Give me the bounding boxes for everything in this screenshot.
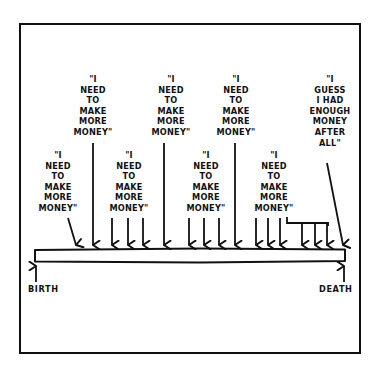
quote-lower-2: "I NEED TO MAKE MORE MONEY" [110, 150, 149, 214]
quote-lower-1: "I NEED TO MAKE MORE MONEY" [39, 150, 78, 214]
arrow-final-quote-icon [327, 163, 343, 245]
arrow-first-quote-icon [68, 218, 76, 245]
quote-final: "I GUESS I HAD ENOUGH MONEY AFTER ALL" [310, 74, 351, 148]
quote-top-2: "I NEED TO MAKE MORE MONEY" [152, 74, 191, 138]
arrows-quote-2 [112, 218, 143, 245]
arrows-quote-4 [256, 218, 280, 245]
arrows-quote-3 [189, 218, 219, 245]
quote-lower-3: "I NEED TO MAKE MORE MONEY" [187, 150, 226, 214]
quote-lower-4: "I NEED TO MAKE MORE MONEY" [255, 150, 294, 214]
birth-label: BIRTH [28, 284, 59, 294]
quote-top-1: "I NEED TO MAKE MORE MONEY" [74, 74, 113, 138]
arrows-bracket [287, 217, 328, 245]
death-label: DEATH [319, 284, 353, 294]
life-timeline-bar [35, 249, 345, 263]
quote-top-3: "I NEED TO MAKE MORE MONEY" [217, 74, 256, 138]
